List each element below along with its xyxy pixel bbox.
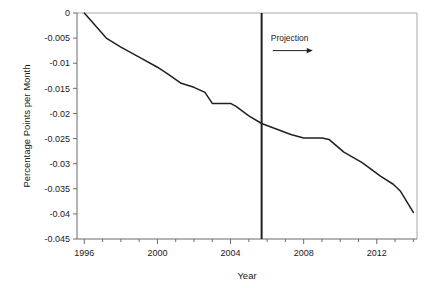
- y-tick-label: -0.04: [49, 209, 70, 219]
- y-tick-label: -0.03: [49, 159, 70, 169]
- x-tick-label: 2008: [294, 248, 314, 258]
- y-tick-label: 0: [65, 8, 70, 18]
- x-tick-label: 2012: [367, 248, 387, 258]
- y-tick-label: -0.025: [44, 134, 70, 144]
- chart-figure: 0-0.005-0.01-0.015-0.02-0.025-0.03-0.035…: [0, 0, 440, 288]
- projection-label: Projection: [271, 33, 309, 43]
- y-tick-label: -0.02: [49, 109, 70, 119]
- x-axis-title: Year: [237, 270, 256, 281]
- y-tick-label: -0.035: [44, 184, 70, 194]
- y-tick-label: -0.005: [44, 33, 70, 43]
- x-tick-label: 2000: [147, 248, 167, 258]
- y-tick-label: -0.045: [44, 234, 70, 244]
- line-chart: 0-0.005-0.01-0.015-0.02-0.025-0.03-0.035…: [0, 0, 440, 288]
- x-tick-label: 2004: [221, 248, 241, 258]
- y-axis-title: Percentage Points per Month: [21, 64, 32, 187]
- x-tick-label: 1996: [74, 248, 94, 258]
- y-tick-label: -0.015: [44, 84, 70, 94]
- y-tick-label: -0.01: [49, 58, 70, 68]
